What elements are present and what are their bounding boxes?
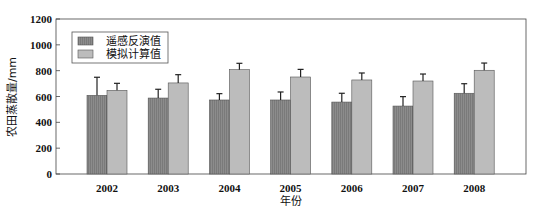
x-axis-ticks: 2002200320042005200620072008	[96, 182, 486, 194]
x-tick-label: 2007	[402, 182, 425, 194]
y-tick-label: 600	[36, 91, 53, 103]
y-axis-label: 农田蒸散量/mm	[5, 57, 19, 137]
y-axis-ticks: 020040060080010001200	[30, 13, 60, 180]
x-tick-label: 2004	[218, 182, 241, 194]
bar	[413, 81, 433, 174]
y-tick-label: 200	[36, 142, 53, 154]
bar-chart: 020040060080010001200 200220032004200520…	[0, 0, 538, 220]
bar	[148, 98, 168, 174]
bar	[454, 93, 474, 174]
bar	[332, 102, 352, 174]
bar	[87, 95, 107, 174]
y-tick-label: 800	[36, 65, 53, 77]
x-tick-label: 2006	[341, 182, 364, 194]
legend: 遥感反演值 模拟计算值	[72, 32, 168, 63]
x-tick-label: 2008	[463, 182, 486, 194]
legend-label-sim: 模拟计算值	[106, 47, 161, 61]
y-tick-label: 1200	[30, 13, 53, 25]
y-tick-label: 1000	[30, 39, 53, 51]
bar	[474, 70, 494, 174]
x-axis-label: 年份	[280, 194, 302, 208]
bar	[107, 90, 127, 174]
bar	[209, 100, 229, 174]
bar	[229, 70, 249, 174]
x-tick-label: 2003	[157, 182, 180, 194]
bar	[168, 83, 188, 174]
legend-swatch-sim	[78, 50, 93, 58]
bar	[352, 80, 372, 174]
bar	[393, 106, 413, 174]
legend-label-remote: 遥感反演值	[106, 34, 161, 48]
y-tick-label: 400	[36, 116, 53, 128]
bar	[271, 100, 291, 174]
x-tick-label: 2005	[280, 182, 303, 194]
bar	[291, 77, 311, 174]
legend-swatch-remote	[78, 37, 93, 45]
x-tick-label: 2002	[96, 182, 119, 194]
y-tick-label: 0	[47, 168, 53, 180]
